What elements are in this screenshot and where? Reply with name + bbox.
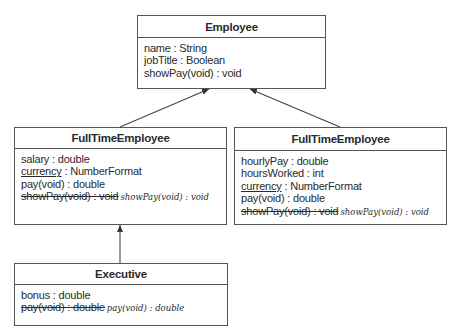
class-fulltime-employee: FullTimeEmployee salary : double currenc… — [14, 127, 227, 225]
arrow-fulltime-to-employee — [120, 89, 209, 127]
static-name: currency — [241, 180, 282, 192]
static-name: currency — [21, 165, 62, 177]
attribute-type: : NumberFormat — [282, 180, 362, 192]
method: pay(void) : double — [21, 178, 220, 190]
arrow-parttime-to-employee — [250, 89, 340, 127]
attribute: jobTitle : Boolean — [144, 54, 319, 66]
class-executive: Executive bonus : double pay(void) : dou… — [14, 263, 228, 326]
method: showPay(void) : void — [144, 67, 319, 79]
method: pay(void) : double — [241, 192, 440, 204]
overridden-method: pay(void) : doublepay(void) : double — [21, 301, 221, 314]
class-name: FullTimeEmployee — [15, 128, 226, 149]
attribute-type: : NumberFormat — [62, 165, 142, 177]
static-attribute: currency : NumberFormat — [21, 165, 220, 177]
overridden-method: showPay(void) : voidshowPay(void) : void — [241, 205, 440, 218]
class-fulltime-employee-right: FullTimeEmployee hourlyPay : double hour… — [234, 127, 447, 225]
overridden-method: showPay(void) : voidshowPay(void) : void — [21, 190, 220, 203]
attribute: salary : double — [21, 153, 220, 165]
class-name: FullTimeEmployee — [235, 128, 446, 151]
struck-method: pay(void) : double — [21, 301, 105, 313]
class-name: Employee — [138, 16, 325, 38]
attribute: hourlyPay : double — [241, 155, 440, 167]
struck-method: showPay(void) : void — [21, 190, 119, 202]
attribute: hoursWorked : int — [241, 167, 440, 179]
struck-method: showPay(void) : void — [241, 205, 339, 217]
handwritten-override: showPay(void) : void — [121, 192, 210, 202]
attribute: name : String — [144, 42, 319, 54]
handwritten-override: pay(void) : double — [107, 303, 185, 313]
handwritten-override: showPay(void) : void — [341, 207, 430, 217]
static-attribute: currency : NumberFormat — [241, 180, 440, 192]
class-employee: Employee name : String jobTitle : Boolea… — [137, 15, 326, 89]
attribute: bonus : double — [21, 289, 221, 301]
class-name: Executive — [15, 264, 227, 285]
